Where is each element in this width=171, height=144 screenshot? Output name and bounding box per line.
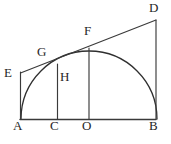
label-point-f: F xyxy=(84,24,91,37)
label-point-d: D xyxy=(149,1,158,14)
label-point-o: O xyxy=(82,119,91,132)
label-point-g: G xyxy=(37,45,46,58)
geometry-figure: A C O B E G H F D xyxy=(0,0,171,144)
label-point-c: C xyxy=(50,119,59,132)
label-point-b: B xyxy=(149,119,158,132)
label-point-h: H xyxy=(60,70,69,83)
label-point-e: E xyxy=(4,66,12,79)
label-point-a: A xyxy=(13,119,22,132)
